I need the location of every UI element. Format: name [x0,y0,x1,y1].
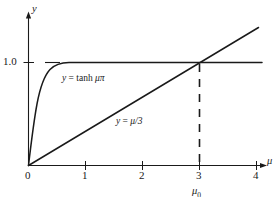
tanh-label-y: y [62,73,66,83]
x-tick-label-3: 3 [196,170,202,181]
linear-label-arg: μ/3 [130,116,142,126]
x-tick-label-2: 2 [139,170,145,181]
x-tick-label-4: 4 [253,170,259,181]
tanh-curve-label: y = tanh μπ [62,74,105,84]
linear-label-eq: = [123,116,128,126]
function-plot-figure [0,0,277,197]
x-tick-label-0: 0 [25,170,31,181]
figure-background [0,0,277,197]
linear-label-y: y [116,116,120,126]
mu-zero-label: μ0 [192,181,201,197]
mu-zero-subscript: 0 [197,191,201,197]
tanh-label-arg: μπ [95,73,105,83]
tanh-label-eq: = tanh [69,73,93,83]
x-axis-variable-label: μ [267,156,272,167]
x-tick-label-1: 1 [82,170,88,181]
linear-line-label: y = μ/3 [116,117,143,127]
y-tick-label-1-0: 1.0 [3,56,17,67]
y-axis-variable-label: y [32,4,37,15]
